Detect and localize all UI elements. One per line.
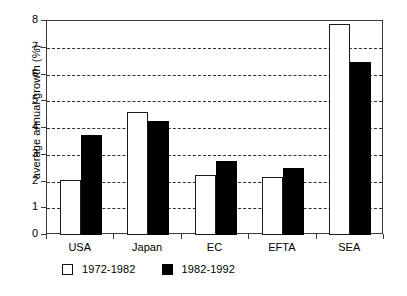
legend-item-1972-1982: 1972-1982: [62, 263, 136, 275]
x-axis-label-efta: EFTA: [247, 241, 317, 253]
x-axis-tick-mark: [181, 234, 182, 239]
legend-label: 1982-1992: [182, 263, 236, 275]
bar-sea-1972-1982: [329, 24, 350, 235]
x-axis-tick-mark: [316, 234, 317, 239]
bar-usa-1972-1982: [60, 180, 81, 235]
bar-japan-1972-1982: [127, 112, 148, 235]
filled-square-swatch: [162, 264, 173, 275]
x-axis-label-usa: USA: [45, 241, 115, 253]
x-axis-label-japan: Japan: [112, 241, 182, 253]
y-axis-tick-label: 3: [22, 148, 38, 159]
x-axis-tick-mark: [113, 234, 114, 239]
bar-chart-figure: average annual growth (%) 012345678 USAJ…: [0, 0, 407, 296]
y-axis-tick-label: 8: [22, 14, 38, 25]
bar-sea-1982-1992: [350, 62, 371, 235]
legend-item-1982-1992: 1982-1992: [162, 263, 236, 275]
y-axis-tick-label: 0: [22, 228, 38, 239]
x-axis-label-ec: EC: [180, 241, 250, 253]
x-axis-tick-mark: [46, 234, 47, 239]
y-axis-tick-label: 7: [22, 41, 38, 52]
bar-efta-1972-1982: [262, 177, 283, 235]
open-square-swatch: [62, 264, 73, 275]
y-axis-tick-label: 1: [22, 201, 38, 212]
bar-ec-1982-1992: [216, 161, 237, 235]
legend-label: 1972-1982: [82, 263, 136, 275]
y-axis-tick-label: 4: [22, 121, 38, 132]
bar-efta-1982-1992: [283, 168, 304, 235]
bar-japan-1982-1992: [148, 121, 169, 235]
y-axis-tick-label: 6: [22, 68, 38, 79]
x-axis-tick-mark: [383, 234, 384, 239]
bar-ec-1972-1982: [195, 175, 216, 235]
x-axis-label-sea: SEA: [314, 241, 384, 253]
plot-area: [46, 20, 383, 234]
y-axis-tick-label: 2: [22, 175, 38, 186]
x-axis-tick-mark: [248, 234, 249, 239]
chart-legend: 1972-19821982-1992: [62, 263, 235, 275]
y-axis-tick-label: 5: [22, 94, 38, 105]
bar-usa-1982-1992: [81, 135, 102, 235]
